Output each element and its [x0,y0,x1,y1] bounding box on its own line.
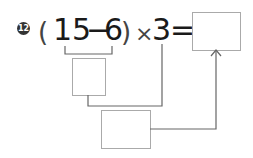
connector-lines [0,0,253,158]
